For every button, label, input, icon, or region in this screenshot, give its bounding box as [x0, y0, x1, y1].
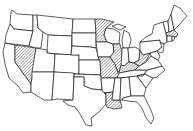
state-connecticut [167, 36, 172, 42]
state-arizona [31, 72, 54, 100]
state-kansas [79, 60, 101, 75]
us-states-map [0, 0, 193, 131]
state-florida [122, 96, 154, 124]
state-maine [171, 5, 187, 30]
state-iowa [96, 42, 114, 57]
state-wyoming [47, 35, 72, 55]
state-rhode-island [172, 36, 175, 41]
state-michigan [122, 30, 131, 48]
state-new-mexico [52, 72, 74, 100]
state-new-york [140, 22, 167, 44]
state-colorado [54, 54, 79, 74]
state-north-dakota [72, 19, 96, 33]
state-south-dakota [72, 33, 96, 48]
